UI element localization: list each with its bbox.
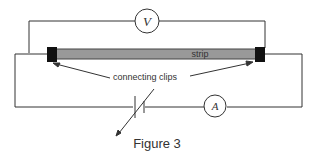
circuit-diagram: V strip connecting clips A Figure 3 (0, 0, 310, 157)
strip-bar (55, 49, 258, 59)
variable-arrow-line (119, 89, 154, 133)
ammeter-label: A (211, 100, 219, 112)
arrowhead-left-icon (53, 63, 60, 67)
clips-label: connecting clips (113, 72, 178, 82)
variable-cell (116, 89, 154, 136)
left-clip (47, 47, 57, 62)
arrow-left-clip (56, 64, 110, 78)
right-clip (255, 47, 265, 62)
strip-label: strip (191, 49, 208, 59)
arrowhead-right-icon (246, 61, 253, 66)
figure-caption: Figure 3 (133, 136, 181, 151)
wire-voltmeter-left (29, 21, 135, 53)
ammeter: A (204, 95, 226, 117)
voltmeter: V (135, 9, 159, 33)
wire-voltmeter-right (159, 21, 265, 48)
strip: strip (55, 49, 258, 59)
arrow-right-clip (190, 63, 250, 76)
